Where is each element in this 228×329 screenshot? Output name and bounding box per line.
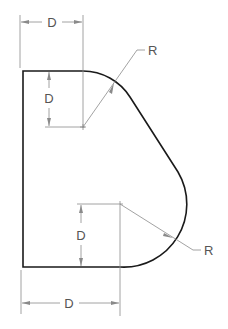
- bottom-width-label: D: [64, 296, 73, 311]
- bottom-radius-leader: [120, 204, 201, 250]
- top-drop-label: D: [44, 91, 53, 106]
- bottom-rise-dimension: [77, 201, 123, 316]
- top-radius-label: R: [148, 43, 157, 58]
- technical-drawing: D D R D R D: [0, 0, 228, 329]
- bottom-radius-label: R: [204, 243, 213, 258]
- top-radius-leader: [83, 50, 145, 127]
- bottom-rise-label: D: [76, 228, 85, 243]
- top-width-label: D: [47, 15, 56, 30]
